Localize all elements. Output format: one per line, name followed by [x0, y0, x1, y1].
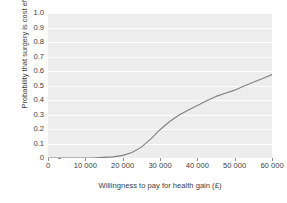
y-tick-label: 0.2 — [18, 125, 44, 133]
plot-area — [48, 13, 272, 158]
y-tick-label: 0.1 — [18, 140, 44, 148]
y-tick-label: 0.7 — [18, 53, 44, 61]
y-tick-label: 0.3 — [18, 111, 44, 119]
x-tick-label: 60 000 — [249, 162, 287, 170]
y-tick-mark — [58, 158, 61, 159]
y-tick-label: 1.0 — [18, 9, 44, 17]
x-tick-mark — [123, 158, 124, 161]
y-tick-label: 0.4 — [18, 96, 44, 104]
y-tick-label: 0.8 — [18, 38, 44, 46]
x-tick-mark — [272, 158, 273, 161]
x-axis-title: Willingness to pay for health gain (£) — [48, 181, 272, 190]
chart-figure: Probability that surgery is cost effecti… — [0, 0, 287, 203]
x-tick-mark — [48, 158, 49, 161]
x-tick-mark — [235, 158, 236, 161]
x-tick-mark — [197, 158, 198, 161]
y-tick-label: 0.6 — [18, 67, 44, 75]
x-tick-mark — [160, 158, 161, 161]
y-tick-label: 0 — [18, 154, 44, 162]
ceac-curve — [48, 75, 272, 158]
x-tick-mark — [85, 158, 86, 161]
y-tick-label: 0.9 — [18, 24, 44, 32]
y-tick-label: 0.5 — [18, 82, 44, 90]
curve-svg — [48, 13, 272, 158]
y-axis-ticks: 00.10.20.30.40.50.60.70.80.91.0 — [14, 0, 44, 203]
